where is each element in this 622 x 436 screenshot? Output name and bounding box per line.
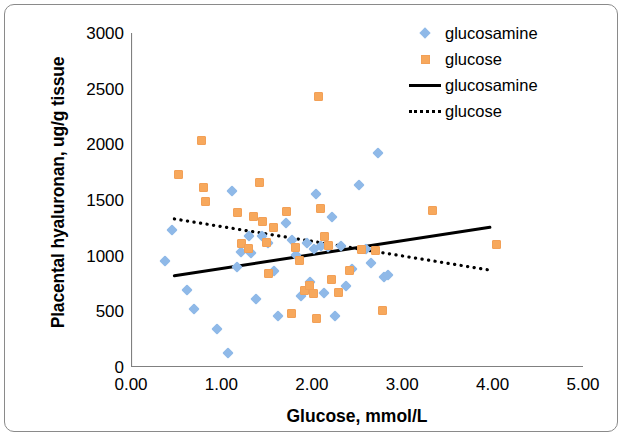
x-tick-label: 4.00	[458, 376, 528, 393]
x-tick-label: 2.00	[277, 376, 347, 393]
legend-label: glucose	[442, 50, 502, 69]
square-marker-icon	[421, 55, 430, 64]
legend-label: glucose	[442, 102, 502, 121]
y-tick-label: 500	[62, 303, 124, 320]
legend-key-square-marker	[408, 55, 442, 64]
x-tick-label: 3.00	[367, 376, 437, 393]
x-tick-label: 1.00	[186, 376, 256, 393]
legend-key-solid-line	[408, 84, 442, 87]
trendline-glucosamine-solid	[174, 227, 489, 275]
trendline-glucose-dotted	[174, 219, 489, 270]
dotted-line-icon	[409, 110, 441, 113]
y-tick-label: 2500	[62, 81, 124, 98]
y-tick-label: 1000	[62, 248, 124, 265]
legend-label: glucosamine	[442, 76, 538, 95]
y-tick-label: 3000	[62, 25, 124, 42]
legend-key-dotted-line	[408, 110, 442, 113]
legend-item-1[interactable]: glucose	[408, 46, 608, 72]
solid-line-icon	[409, 84, 441, 87]
x-tick-label: 5.00	[548, 376, 618, 393]
y-axis-tick-labels: 050010001500200025003000	[56, 0, 124, 400]
legend-item-0[interactable]: glucosamine	[408, 20, 608, 46]
legend-item-3[interactable]: glucose	[408, 98, 608, 124]
x-axis-title: Glucose, mmol/L	[131, 406, 583, 427]
legend-label: glucosamine	[442, 24, 538, 43]
legend-key-diamond-marker	[408, 29, 442, 37]
chart-legend: glucosamineglucoseglucosamineglucose	[408, 20, 608, 124]
y-tick-label: 1500	[62, 192, 124, 209]
diamond-marker-icon	[419, 27, 430, 38]
y-tick-label: 2000	[62, 136, 124, 153]
x-tick-label: 0.00	[96, 376, 166, 393]
y-tick-label: 0	[62, 359, 124, 376]
scatter-chart: Placental hyaluronan, ug/g tissue Glucos…	[0, 0, 622, 436]
legend-item-2[interactable]: glucosamine	[408, 72, 608, 98]
